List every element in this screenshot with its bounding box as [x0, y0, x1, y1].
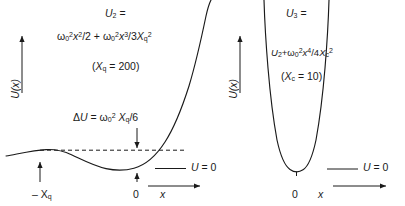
- left-potential-equation: ω02x2/2 + ω02x3/3Xq2: [57, 31, 152, 42]
- right-origin-label: 0: [292, 189, 298, 200]
- right-potential-equation: U2+ω02x4/4Xc2: [271, 47, 333, 58]
- right-parameter-line: (Xc = 10): [281, 71, 322, 82]
- right-potential-title: U3 =: [286, 8, 307, 19]
- right-y-axis-label: U(x): [227, 79, 239, 99]
- left-potential-title: U2 =: [105, 8, 126, 19]
- potential-energy-figure: U2 = ω02x2/2 + ω02x3/3Xq2 (Xq = 200) ΔU …: [0, 0, 405, 206]
- left-parameter-line: (Xq = 200): [92, 61, 139, 72]
- left-xq-tick-label: – Xq: [32, 189, 52, 200]
- left-potential-curve: [6, 0, 211, 170]
- left-y-axis-label: U(x): [9, 79, 21, 99]
- left-origin-label: 0: [133, 189, 139, 200]
- right-x-axis-label: x: [318, 189, 323, 200]
- barrier-height-label: ΔU = ω02 Xq/6: [73, 112, 138, 123]
- right-zero-level-label: U = 0: [363, 162, 388, 173]
- left-zero-level-label: U = 0: [191, 162, 216, 173]
- left-x-axis-label: x: [160, 189, 165, 200]
- right-potential-curve: [264, 0, 329, 172]
